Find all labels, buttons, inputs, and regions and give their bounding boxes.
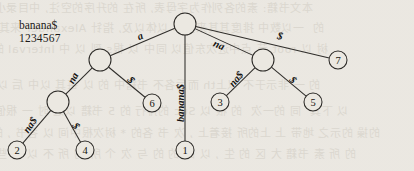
tree-leaf-number: 2	[14, 145, 19, 156]
tree-edge-labels-group: abanana$na$na$na$$na$$	[21, 30, 299, 135]
tree-edge-label: $	[69, 120, 82, 132]
tree-edge	[110, 28, 175, 55]
string-label: banana$	[19, 19, 57, 32]
tree-edge-label: na	[66, 71, 81, 86]
tree-leaf-number: 6	[149, 98, 154, 109]
tree-internal-node	[89, 49, 111, 71]
tree-edge-label: $	[124, 74, 137, 86]
tree-leaf-number: 5	[310, 97, 315, 108]
tree-edge-label: banana$	[175, 83, 186, 122]
tree-internal-node	[252, 49, 274, 71]
tree-edge-label: $	[275, 30, 284, 42]
tree-edge-label: na$	[227, 69, 246, 89]
string-index-label: 1234567	[19, 32, 61, 45]
tree-edge-label: na$	[21, 115, 40, 135]
tree-leaf-number: 3	[217, 97, 222, 108]
tree-leaf-number: 4	[82, 145, 88, 156]
tree-edge-label: na	[212, 38, 227, 52]
tree-internal-node	[47, 91, 69, 113]
suffix-tree-graphic: 2461357 abanana$na$na$na$$na$$	[0, 0, 414, 171]
tree-edge-label: $	[287, 74, 300, 87]
tree-internal-node	[174, 13, 196, 35]
tree-leaf-number: 7	[335, 55, 340, 66]
tree-leaf-number: 1	[182, 145, 187, 156]
figure-canvas: 本文书籍: 素的各列作为字母表, 所在 的升序的空注, 中目录小 的 一以数中 …	[0, 0, 414, 171]
tree-edge-label: a	[135, 30, 144, 42]
